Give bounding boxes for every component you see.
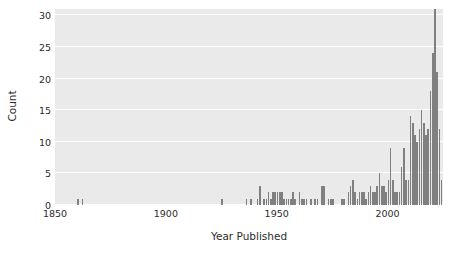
y-tick-label: 15	[7, 105, 55, 116]
x-tick-label: 1850	[43, 208, 67, 219]
histogram-bar	[306, 199, 308, 205]
histogram-figure: Count 051015202530 1850190019502000 Year…	[0, 0, 455, 256]
histogram-bar	[310, 199, 312, 205]
y-axis-ticks: 051015202530	[0, 9, 55, 205]
gridline	[55, 78, 443, 79]
y-tick-label: 30	[7, 10, 55, 21]
y-tick-label: 25	[7, 41, 55, 52]
x-tick-label: 2000	[375, 208, 399, 219]
gridline	[55, 172, 443, 173]
x-axis-ticks: 1850190019502000	[55, 208, 443, 222]
gridline	[55, 14, 443, 15]
x-tick-label: 1900	[154, 208, 178, 219]
x-tick-label: 1950	[265, 208, 289, 219]
histogram-bar	[221, 199, 223, 205]
y-tick-label: 5	[7, 168, 55, 179]
gridline	[55, 46, 443, 47]
histogram-bar	[250, 199, 252, 205]
histogram-bar	[332, 199, 334, 205]
histogram-bar	[77, 199, 79, 205]
histogram-bar	[317, 199, 319, 205]
plot-area	[55, 9, 443, 205]
histogram-bar	[259, 186, 261, 205]
gridline	[55, 109, 443, 110]
y-tick-label: 10	[7, 136, 55, 147]
histogram-bar	[343, 199, 345, 205]
x-axis-label: Year Published	[55, 230, 443, 242]
histogram-bar	[82, 199, 84, 205]
histogram-bar	[294, 199, 296, 205]
histogram-bar	[323, 186, 325, 205]
histogram-bar	[246, 199, 248, 205]
y-tick-label: 20	[7, 73, 55, 84]
gridline	[55, 141, 443, 142]
histogram-bar	[441, 180, 443, 205]
